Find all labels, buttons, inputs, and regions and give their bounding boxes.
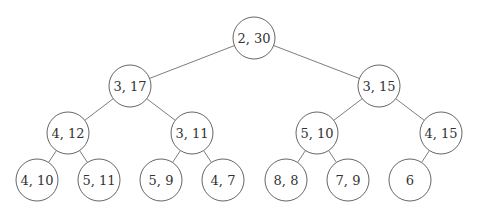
tree-node: 4, 7	[202, 159, 244, 201]
tree-edge	[334, 99, 363, 121]
tree-node: 3, 15	[358, 65, 400, 107]
tree-node: 4, 12	[47, 112, 89, 154]
tree-node: 4, 10	[16, 159, 58, 201]
tree-edge	[80, 151, 88, 163]
tree-node: 5, 10	[296, 112, 338, 154]
tree-edge	[422, 151, 430, 163]
node-label: 7, 9	[336, 173, 361, 188]
node-label: 4, 10	[20, 173, 53, 188]
node-label: 2, 30	[237, 31, 270, 46]
tree-edge	[173, 151, 181, 163]
node-label: 4, 15	[424, 126, 457, 141]
node-label: 4, 7	[211, 173, 236, 188]
tree-edge	[329, 151, 337, 163]
tree-node: 5, 9	[140, 159, 182, 201]
tree-edge	[396, 99, 425, 121]
tree-edge	[147, 99, 176, 121]
node-label: 6	[406, 173, 414, 188]
tree-node: 6	[389, 159, 431, 201]
tree-node: 5, 11	[78, 159, 120, 201]
node-label: 3, 11	[175, 126, 208, 141]
node-label: 5, 11	[82, 173, 115, 188]
tree-node: 3, 11	[171, 112, 213, 154]
tree-node: 3, 17	[109, 65, 151, 107]
tree-nodes: 2, 303, 173, 154, 123, 115, 104, 154, 10…	[16, 17, 462, 201]
node-label: 8, 8	[274, 173, 299, 188]
tree-edge	[274, 46, 360, 79]
tree-edge	[298, 151, 306, 163]
tree-edge	[85, 99, 114, 121]
tree-edge	[204, 151, 212, 163]
tree-node: 2, 30	[233, 17, 275, 59]
tree-edge	[150, 46, 235, 79]
node-label: 5, 9	[149, 173, 174, 188]
tree-diagram: 2, 303, 173, 154, 123, 115, 104, 154, 10…	[0, 0, 477, 218]
node-label: 3, 17	[113, 79, 146, 94]
node-label: 5, 10	[300, 126, 333, 141]
tree-node: 4, 15	[420, 112, 462, 154]
node-label: 4, 12	[51, 126, 84, 141]
tree-edge	[49, 151, 57, 163]
tree-node: 8, 8	[265, 159, 307, 201]
tree-node: 7, 9	[327, 159, 369, 201]
node-label: 3, 15	[362, 79, 395, 94]
